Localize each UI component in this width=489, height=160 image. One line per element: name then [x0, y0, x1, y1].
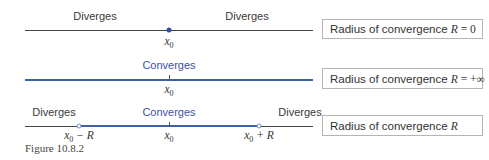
center-tick: [169, 75, 170, 80]
radius-var: R: [451, 23, 458, 35]
radius-var: R: [451, 120, 458, 132]
radius-box: Radius of convergence R = 0: [322, 19, 483, 39]
x0-label: x0: [164, 35, 173, 50]
x0-plus-r-label: x0 + R: [244, 129, 274, 144]
radius-box: Radius of convergence R = +∞: [322, 68, 483, 89]
number-line-right-diverges: [259, 126, 313, 127]
center-point-icon: [167, 28, 172, 33]
open-endpoint-right-icon: [257, 124, 262, 129]
x0-label: x0: [164, 83, 173, 98]
open-endpoint-left-icon: [77, 124, 82, 129]
radius-value: = +∞: [461, 73, 485, 85]
diverges-left-label: Diverges: [73, 10, 116, 22]
diverges-right-label: Diverges: [278, 106, 321, 118]
diverges-left-label: Diverges: [32, 106, 75, 118]
radius-box: Radius of convergence R: [322, 115, 483, 136]
radius-text: Radius of convergence: [330, 73, 448, 85]
converges-label: Converges: [142, 106, 195, 118]
center-tick: [169, 122, 170, 127]
converges-label: Converges: [142, 59, 195, 71]
radius-text: Radius of convergence: [330, 23, 448, 35]
figure-caption: Figure 10.8.2: [25, 142, 84, 154]
radius-value: = 0: [461, 23, 476, 35]
x0-label: x0: [164, 129, 173, 144]
number-line-left-diverges: [25, 126, 79, 127]
diverges-right-label: Diverges: [225, 10, 268, 22]
radius-var: R: [451, 73, 458, 85]
radius-text: Radius of convergence: [330, 120, 448, 132]
